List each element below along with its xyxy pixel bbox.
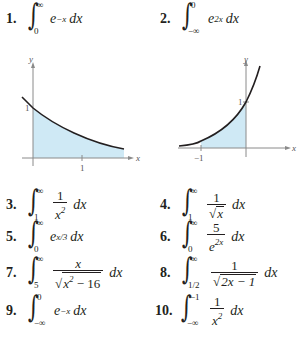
problem-number: 6. (160, 229, 180, 245)
problem-7: 7. ∫∞5 x√x2 − 16dx (6, 258, 122, 288)
problem-5: 5. ∫∞0 ex/3dx (6, 222, 83, 252)
problem-3: 3. ∫∞1 1x2dx (6, 190, 87, 220)
integrand: 1√2x − 1dx (208, 259, 277, 288)
x-axis-label: x (135, 153, 140, 163)
problem-number: 5. (6, 229, 26, 245)
x-axis-arrow-icon (285, 146, 291, 150)
shaded-region (201, 102, 246, 148)
problem-number: 1. (6, 11, 26, 27)
y-axis-label: y (243, 55, 248, 64)
integral-sign: ∫0−∞ (28, 295, 54, 327)
problem-number: 9. (6, 303, 26, 319)
integral-sign: ∫∞1/2 (182, 257, 208, 289)
integral-sign: ∫∞5 (28, 257, 50, 289)
problem-2: 2. ∫0−∞ e2xdx (160, 4, 239, 34)
problem-6: 6. ∫∞0 5e2xdx (160, 222, 245, 252)
x-axis-arrow-icon (128, 156, 134, 160)
problem-number: 4. (160, 197, 180, 213)
integrand: e−xdx (54, 303, 87, 319)
integrand: 5e2xdx (204, 221, 245, 253)
problem-number: 10. (155, 303, 179, 319)
problem-8: 8. ∫∞1/2 1√2x − 1dx (160, 258, 277, 288)
y-axis-label: y (28, 55, 33, 64)
integrand: e−xdx (50, 11, 83, 27)
integrand: 1√xdx (204, 191, 245, 220)
problem-number: 2. (160, 11, 180, 27)
problem-number: 7. (6, 265, 26, 281)
y-tick-label: 1 (238, 97, 243, 107)
problem-9: 9. ∫0−∞ e−xdx (6, 296, 87, 326)
graph-2: y x 1 −1 (150, 55, 297, 175)
integrand: e2xdx (208, 11, 239, 27)
y-tick-label: 1 (25, 103, 30, 113)
integrand: ex/3dx (50, 229, 83, 245)
x-tick-label: −1 (194, 153, 204, 163)
x-axis-label: x (291, 143, 296, 153)
integrand: 1x2dx (207, 295, 244, 327)
shaded-region (33, 108, 124, 158)
problem-number: 8. (160, 265, 180, 281)
problem-10: 10. ∫−1−∞ 1x2dx (155, 296, 244, 326)
graph-1: y x 1 1 (0, 55, 150, 175)
integrand: 1x2dx (50, 189, 87, 221)
integrand: x√x2 − 16dx (50, 257, 122, 290)
problem-1: 1. ∫∞0 e−xdx (6, 4, 83, 34)
integral-sign: ∫∞0 (28, 3, 50, 35)
x-tick-label: 1 (80, 163, 85, 173)
integral-sign: ∫−1−∞ (181, 295, 207, 327)
integral-sign: ∫∞0 (182, 221, 204, 253)
integral-sign: ∫0−∞ (182, 3, 208, 35)
problem-4: 4. ∫∞1 1√xdx (160, 190, 245, 220)
problem-number: 3. (6, 197, 26, 213)
integral-sign: ∫∞0 (28, 221, 50, 253)
